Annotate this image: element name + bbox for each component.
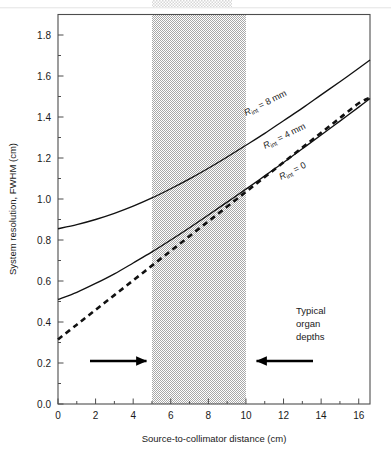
x-tick-label: 4 bbox=[130, 410, 136, 421]
annotation-line-3: depths bbox=[296, 331, 325, 342]
y-tick-label: 1.8 bbox=[37, 30, 51, 41]
x-axis-ticks bbox=[58, 399, 359, 405]
x-tick-label: 2 bbox=[93, 410, 99, 421]
annotation-line-1: Typical bbox=[296, 305, 326, 316]
y-tick-label: 0.6 bbox=[37, 276, 51, 287]
chart-figure: 0246810121416 0.00.20.40.60.81.01.21.41.… bbox=[0, 0, 391, 450]
y-axis-title: System resolution, FWHM (cm) bbox=[7, 143, 18, 275]
x-tick-label: 8 bbox=[206, 410, 212, 421]
y-tick-label: 0.4 bbox=[37, 317, 51, 328]
y-tick-label: 1.0 bbox=[37, 194, 51, 205]
x-tick-label: 10 bbox=[240, 410, 252, 421]
annotation-typical-organ-depths: Typical organ depths bbox=[296, 305, 326, 342]
shaded-band-typical-organ-depths bbox=[152, 15, 246, 405]
curve-label-rint-8mm: Rint = 8 mm bbox=[242, 88, 288, 119]
top-scan-fragment bbox=[0, 0, 391, 8]
annotation-line-2: organ bbox=[296, 318, 320, 329]
x-axis-title: Source-to-collimator distance (cm) bbox=[142, 433, 287, 444]
y-tick-label: 1.6 bbox=[37, 71, 51, 82]
y-tick-label: 0.8 bbox=[37, 235, 51, 246]
svg-text:Rint = 4 mm: Rint = 4 mm bbox=[261, 121, 307, 152]
y-tick-label: 0.2 bbox=[37, 358, 51, 369]
curve-label-rint-4mm: Rint = 4 mm bbox=[261, 121, 307, 152]
x-tick-label: 16 bbox=[353, 410, 365, 421]
svg-text:Rint = 8 mm: Rint = 8 mm bbox=[242, 88, 288, 119]
curve-label-8mm-rest: = 8 mm bbox=[254, 88, 288, 112]
x-axis-tick-labels: 0246810121416 bbox=[55, 410, 365, 421]
x-tick-label: 6 bbox=[168, 410, 174, 421]
y-tick-label: 0.0 bbox=[37, 399, 51, 410]
curve-label-0-rest: = 0 bbox=[289, 160, 307, 176]
x-tick-label: 14 bbox=[316, 410, 328, 421]
y-tick-label: 1.2 bbox=[37, 153, 51, 164]
x-tick-label: 12 bbox=[278, 410, 290, 421]
y-axis-tick-labels: 0.00.20.40.60.81.01.21.41.61.8 bbox=[37, 30, 51, 410]
y-axis-ticks bbox=[58, 35, 64, 404]
y-tick-label: 1.4 bbox=[37, 112, 51, 123]
x-tick-label: 0 bbox=[55, 410, 61, 421]
